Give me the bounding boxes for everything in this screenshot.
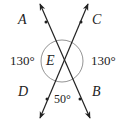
diagram-canvas: A C D B E 130° 130° 50° xyxy=(0,0,121,123)
angle-left-label: 130° xyxy=(10,53,35,68)
angle-bottom-label: 50° xyxy=(54,92,71,106)
point-A-dot xyxy=(45,21,48,24)
label-E: E xyxy=(45,53,55,68)
label-A: A xyxy=(17,12,27,27)
angle-right-label: 130° xyxy=(91,53,116,68)
point-D-dot xyxy=(46,98,49,101)
label-D: D xyxy=(17,84,28,99)
label-B: B xyxy=(92,84,101,99)
point-B-dot xyxy=(79,98,82,101)
label-C: C xyxy=(92,12,102,27)
point-C-dot xyxy=(80,21,83,24)
